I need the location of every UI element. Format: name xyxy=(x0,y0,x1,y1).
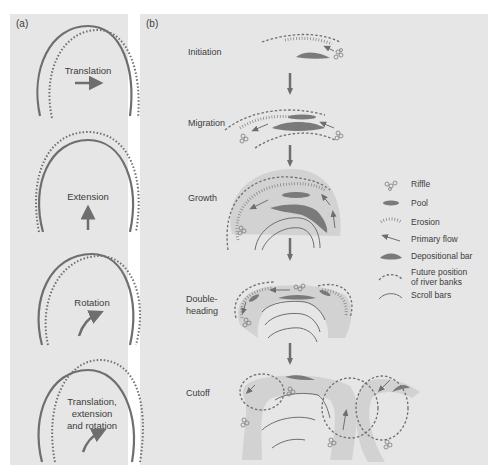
legend: Riffle Pool Erosion Primary flow Deposit… xyxy=(379,179,473,300)
stage-growth-drawing xyxy=(227,169,341,250)
stage-migration-drawing xyxy=(225,110,343,148)
legend-label-line-1: Future position xyxy=(411,267,467,277)
panel-b-label: (b) xyxy=(146,18,158,29)
pool-shape xyxy=(282,192,310,198)
legend-label: Pool xyxy=(411,198,428,208)
mode-label: Extension xyxy=(67,191,109,202)
riffle-icon xyxy=(240,131,343,143)
mode-extension: Extension xyxy=(36,132,139,232)
flow-arrow-icon xyxy=(326,47,334,51)
legend-label: Riffle xyxy=(411,179,430,189)
stage-label-double-heading-2: heading xyxy=(186,306,218,316)
riffle-icon xyxy=(385,181,397,191)
future-bank-icon xyxy=(379,275,402,280)
scroll-bar-line xyxy=(262,417,315,430)
pool-icon xyxy=(383,201,399,206)
primary-flow-icon xyxy=(384,236,400,241)
stage-label-growth: Growth xyxy=(188,193,217,203)
legend-item-riffle: Riffle xyxy=(385,179,430,191)
mode-rotation: Rotation xyxy=(39,254,140,345)
mode-label: Rotation xyxy=(74,297,109,308)
erosion-icon xyxy=(381,219,401,222)
scroll-bar-line xyxy=(268,328,317,342)
channel-belt xyxy=(242,375,357,460)
mode-label-line-1: Translation, xyxy=(67,396,116,407)
legend-label: Primary flow xyxy=(411,234,459,244)
legend-item-erosion: Erosion xyxy=(381,217,440,227)
mode-translation: Translation xyxy=(37,26,138,118)
legend-item-future-bank: Future position of river banks xyxy=(379,267,467,287)
flow-arrow-icon xyxy=(254,124,268,130)
depositional-bar xyxy=(296,53,330,59)
stage-label-cutoff: Cutoff xyxy=(186,388,210,398)
rotation-arrow-icon xyxy=(79,314,97,336)
figure-canvas: (a) Translation Extension Rotation Trans… xyxy=(0,0,493,475)
legend-item-pool: Pool xyxy=(383,198,428,208)
stage-label-migration: Migration xyxy=(188,118,225,128)
mode-label-line-3: and rotation xyxy=(67,420,117,431)
erosion-marks xyxy=(285,38,332,44)
original-bank-line xyxy=(39,140,133,232)
stage-double-heading-drawing xyxy=(235,282,352,342)
pool-shape xyxy=(288,115,316,120)
stage-label-double-heading-1: Double- xyxy=(186,294,218,304)
legend-label: Erosion xyxy=(411,217,440,227)
scroll-bar-line xyxy=(265,313,320,332)
channel-belt-downstream xyxy=(356,379,420,462)
legend-item-scroll-bars: Scroll bars xyxy=(379,290,451,300)
depositional-bar xyxy=(272,122,325,131)
legend-label: Depositional bar xyxy=(411,251,473,261)
stage-initiation-drawing xyxy=(262,35,343,60)
scroll-bar-line xyxy=(272,439,305,448)
mode-label-line-2: extension xyxy=(72,408,113,419)
depositional-bar-icon xyxy=(380,254,402,260)
legend-item-depositional-bar: Depositional bar xyxy=(380,251,473,261)
stage-label-initiation: Initiation xyxy=(188,47,222,57)
mode-label: Translation xyxy=(65,65,112,76)
panel-a-label: (a) xyxy=(16,18,28,29)
combined-arrow-icon xyxy=(83,432,100,452)
legend-item-primary-flow: Primary flow xyxy=(384,234,459,244)
legend-label-line-2: of river banks xyxy=(411,277,462,287)
legend-label: Scroll bars xyxy=(411,290,451,300)
future-bank-line xyxy=(262,35,340,43)
future-bank-line xyxy=(255,133,335,148)
mode-combined: Translation, extension and rotation xyxy=(39,360,143,462)
scroll-bar-icon xyxy=(379,294,402,299)
riffle-icon xyxy=(334,49,343,60)
stage-cutoff-drawing xyxy=(240,374,420,462)
flow-arrow-icon xyxy=(322,123,334,128)
